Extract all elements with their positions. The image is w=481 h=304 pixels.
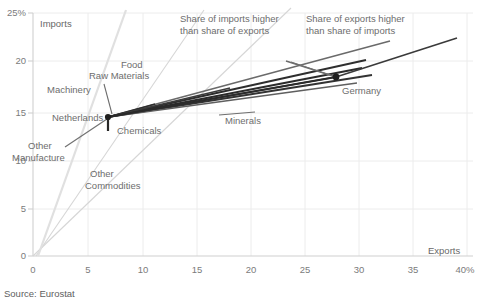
y-tick-0: 0: [0, 250, 26, 261]
series-label-other-manufacture-line2: Manufacture: [12, 152, 65, 164]
x-tick-25: 25: [291, 264, 319, 275]
x-axis-title: Exports: [428, 245, 460, 256]
germany-point-marker: [333, 74, 340, 81]
series-label-raw-materials: Raw Materials: [89, 70, 149, 82]
x-tick-5: 5: [74, 264, 102, 275]
series-label-chemicals: Chemicals: [117, 125, 161, 137]
series-label-other-commodities-line1: Other: [90, 168, 114, 180]
x-tick-35: 35: [399, 264, 427, 275]
y-tick-5: 5: [0, 203, 26, 214]
series-label-other-commodities-line2: Commodities: [85, 180, 140, 192]
germany-extension-1: [336, 38, 457, 77]
y-axis-title: Imports: [40, 18, 72, 29]
chart-screenshot: 25% 20 15 10 5 0 0 5 10 15 20 25 30 35 4…: [0, 0, 481, 304]
series-label-germany: Germany: [342, 85, 381, 97]
annotation-exports-higher-line2: than share of imports: [306, 25, 395, 37]
annotation-imports-higher-line2: than share of exports: [180, 25, 269, 37]
leader-machinery: [104, 84, 112, 114]
x-tick-30: 30: [345, 264, 373, 275]
y-tick-marks: [28, 13, 33, 256]
series-line-minerals: [108, 83, 357, 117]
series-label-machinery: Machinery: [47, 84, 91, 96]
diagonal-parity-line: [33, 8, 291, 256]
y-tick-15: 15: [0, 107, 26, 118]
light-guide-lines: [33, 8, 291, 256]
netherlands-converging-strokes: [108, 77, 336, 117]
series-label-minerals: Minerals: [225, 115, 261, 127]
x-tick-15: 15: [183, 264, 211, 275]
y-tick-20: 20: [0, 55, 26, 66]
x-tick-20: 20: [237, 264, 265, 275]
source-note: Source: Eurostat: [4, 288, 75, 299]
annotation-exports-higher-line1: Share of exports higher: [306, 13, 405, 25]
x-tick-10: 10: [129, 264, 157, 275]
other-manufacture-line: [38, 10, 126, 256]
series-label-other-manufacture-line1: Other: [28, 140, 52, 152]
netherlands-point-marker: [105, 114, 111, 120]
annotation-imports-higher-line1: Share of imports higher: [180, 13, 279, 25]
chart-plot-area: [0, 0, 481, 304]
x-tick-0: 0: [19, 264, 47, 275]
series-label-netherlands: Netherlands: [52, 112, 103, 124]
y-tick-25: 25%: [0, 7, 26, 18]
x-tick-40: 40%: [450, 264, 480, 275]
